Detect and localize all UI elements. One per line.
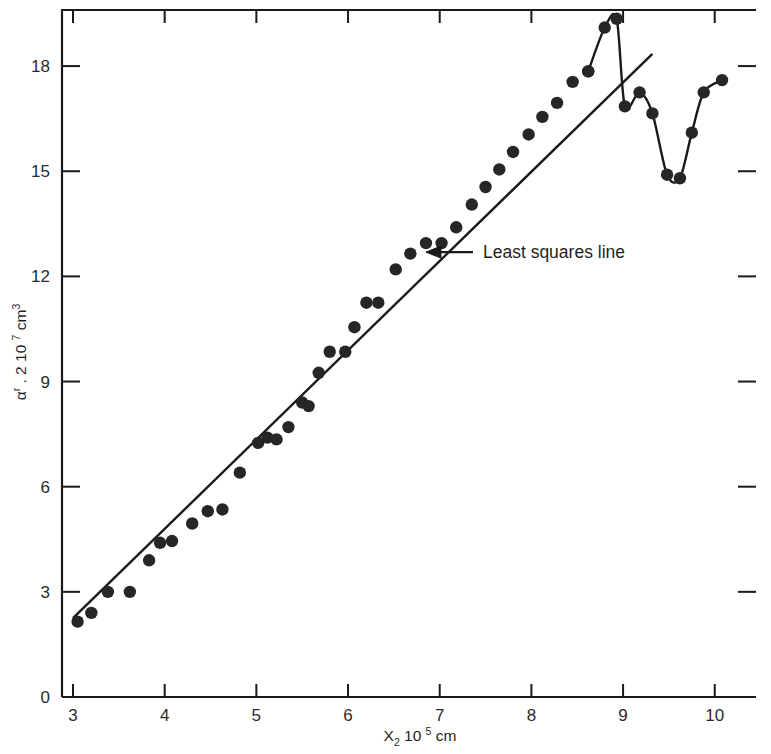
data-point [348, 321, 360, 333]
data-point [143, 554, 155, 566]
data-point [372, 296, 384, 308]
data-point [646, 107, 658, 119]
data-point [404, 247, 416, 259]
y-tick-label-15: 15 [31, 162, 50, 181]
data-point [270, 433, 282, 445]
data-point [633, 86, 645, 98]
x-axis-title: X2 10 5 cm [384, 725, 457, 749]
y-tick-label-9: 9 [41, 373, 50, 392]
chart-figure: 3456789100369121518Least squares lineαr … [0, 0, 771, 754]
data-point [536, 111, 548, 123]
data-point [619, 100, 631, 112]
x-tick-label-3: 3 [68, 706, 77, 725]
data-point [661, 169, 673, 181]
data-point [674, 172, 686, 184]
data-point [166, 535, 178, 547]
data-point [551, 97, 563, 109]
data-point [339, 346, 351, 358]
data-point [599, 21, 611, 33]
y-tick-label-12: 12 [31, 267, 50, 286]
data-point [507, 146, 519, 158]
data-point [698, 86, 710, 98]
data-point [686, 126, 698, 138]
x-tick-label-4: 4 [160, 706, 169, 725]
data-point [102, 586, 114, 598]
data-point [582, 65, 594, 77]
data-point [234, 466, 246, 478]
x-tick-label-7: 7 [435, 706, 444, 725]
data-point [282, 421, 294, 433]
y-tick-label-18: 18 [31, 57, 50, 76]
scatter-plot: 3456789100369121518Least squares lineαr … [0, 0, 771, 754]
least-squares-line [73, 54, 652, 618]
data-point [479, 181, 491, 193]
data-point [610, 13, 622, 25]
data-point [216, 503, 228, 515]
data-point [124, 586, 136, 598]
data-point [466, 198, 478, 210]
data-point [566, 76, 578, 88]
x-tick-label-9: 9 [618, 706, 627, 725]
data-point [420, 237, 432, 249]
x-tick-label-6: 6 [343, 706, 352, 725]
data-point [202, 505, 214, 517]
data-point [522, 128, 534, 140]
data-point [450, 221, 462, 233]
y-axis-title: αr . 2 10 7 cm3 [10, 304, 30, 401]
data-point [323, 346, 335, 358]
data-point [154, 537, 166, 549]
data-point [360, 296, 372, 308]
data-point [85, 607, 97, 619]
y-tick-label-6: 6 [41, 478, 50, 497]
data-point [390, 263, 402, 275]
data-point [71, 615, 83, 627]
data-point [312, 367, 324, 379]
x-tick-label-8: 8 [527, 706, 536, 725]
data-point [493, 163, 505, 175]
y-tick-label-3: 3 [41, 583, 50, 602]
y-tick-label-0: 0 [41, 688, 50, 707]
least-squares-line-annotation: Least squares line [483, 242, 625, 262]
data-point [186, 517, 198, 529]
data-point [716, 74, 728, 86]
x-tick-label-10: 10 [705, 706, 724, 725]
x-tick-label-5: 5 [252, 706, 261, 725]
data-point [302, 400, 314, 412]
